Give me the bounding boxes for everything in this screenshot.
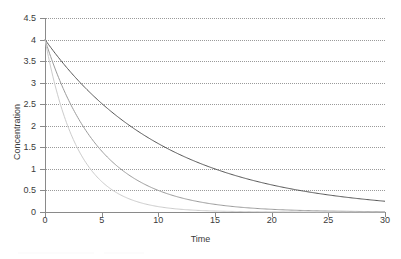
series-line-medium-decay [45, 40, 385, 212]
page-artifact-secondary [104, 252, 144, 254]
y-axis-title: Concentration [12, 104, 22, 160]
page-artifact [18, 252, 94, 254]
data-curves [0, 0, 401, 259]
series-line-fast-decay [45, 40, 385, 212]
x-axis-title: Time [0, 234, 401, 244]
chart-container: 00.511.522.533.544.5 051015202530 Concen… [0, 0, 401, 259]
series-line-slow-decay [45, 40, 385, 202]
